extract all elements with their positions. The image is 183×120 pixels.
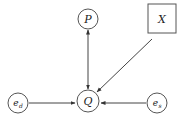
node-q: Q <box>77 90 99 112</box>
node-p-label: P <box>83 13 92 26</box>
node-ed: e d <box>8 93 28 113</box>
node-q-label: Q <box>83 95 92 108</box>
node-x-label: X <box>157 13 167 26</box>
node-x: X <box>148 4 176 33</box>
node-es-subscript: s <box>158 102 161 109</box>
edge-x-q <box>97 39 152 92</box>
node-es-label: e <box>153 98 158 108</box>
node-p: P <box>78 9 98 29</box>
causal-diagram: P X Q e d e s <box>0 0 183 120</box>
node-ed-subscript: d <box>19 102 23 109</box>
node-es: e s <box>147 93 167 113</box>
node-ed-label: e <box>13 98 18 108</box>
